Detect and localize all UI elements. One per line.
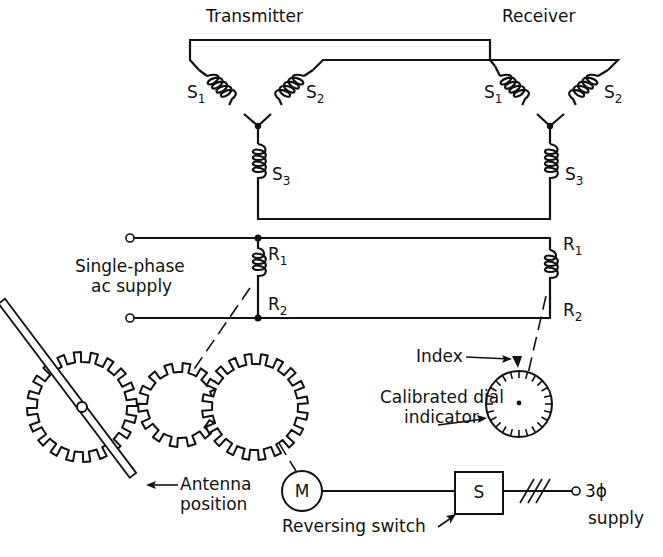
receiver-s2-coil <box>550 70 608 126</box>
receiver-shaft-link <box>527 296 546 378</box>
transmitter-s1-coil <box>199 70 258 126</box>
receiver-r2-label: R2 <box>563 300 582 324</box>
three-phase-terminal <box>572 487 580 495</box>
index-label: Index <box>416 346 463 366</box>
receiver-s3-coil <box>545 126 558 200</box>
ac-terminal-top <box>126 234 134 242</box>
switch-arrowhead <box>446 514 456 524</box>
gear-idler <box>138 363 222 447</box>
transmitter-stator: S1 S2 S3 <box>187 70 324 200</box>
index-pointer <box>512 356 522 368</box>
receiver-label: Receiver <box>502 6 576 26</box>
three-phase-label-line1: 3ϕ <box>585 481 607 501</box>
stator-wire-s2 <box>313 60 618 70</box>
synchro-diagram: Transmitter Receiver S1 <box>0 0 663 557</box>
antenna-label-line2: position <box>180 494 247 514</box>
supply-label-line1: Single-phase <box>75 256 185 276</box>
receiver-r1-label: R1 <box>563 234 582 258</box>
stator-wire-s1 <box>190 40 495 70</box>
receiver-s2-label: S2 <box>604 82 622 106</box>
supply-label-line2: ac supply <box>91 276 172 296</box>
transmitter-s3-label: S3 <box>272 164 290 188</box>
gear-motor <box>202 354 308 460</box>
transmitter-r1-label: R1 <box>268 244 287 268</box>
receiver-s1-coil <box>495 66 550 126</box>
transmitter-s3-coil <box>253 126 266 200</box>
three-phase-label-line2: supply <box>588 508 644 528</box>
transmitter-s2-label: S2 <box>306 82 324 106</box>
rotor-wire-top <box>134 238 550 250</box>
switch-label: S <box>474 482 485 502</box>
antenna-label-line1: Antenna <box>180 474 252 494</box>
transmitter-s1-label: S1 <box>187 82 205 106</box>
receiver-stator: S1 S2 S3 <box>484 66 622 200</box>
transmitter-label: Transmitter <box>205 6 303 26</box>
rotor-wire-bottom <box>134 304 550 318</box>
dial-center <box>517 401 522 406</box>
stator-wire-s3 <box>258 200 550 219</box>
receiver-rotor-coil <box>545 250 558 304</box>
antenna-pivot <box>77 402 87 412</box>
receiver-s3-label: S3 <box>565 164 583 188</box>
rotor-circuit: R1 R2 R1 R2 Single-phase ac supply <box>75 234 582 324</box>
receiver-s1-label: S1 <box>484 82 502 106</box>
transmitter-r2-label: R2 <box>268 294 287 318</box>
ac-terminal-bottom <box>126 314 134 322</box>
transmitter-rotor-coil <box>253 238 266 318</box>
dial-label-line1: Calibrated dial <box>380 387 504 407</box>
reversing-switch-label: Reversing switch <box>282 516 426 536</box>
motor-label: M <box>295 481 310 501</box>
transmitter-s2-coil <box>258 70 313 126</box>
